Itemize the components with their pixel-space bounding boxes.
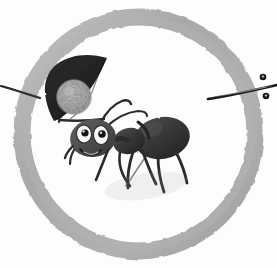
illustration-canvas [0, 0, 277, 269]
banner-moon-disc [57, 80, 92, 115]
left-eye-pupil [81, 129, 88, 136]
right-eye-pupil [98, 130, 106, 138]
ant-illustration-artwork [0, 0, 277, 269]
